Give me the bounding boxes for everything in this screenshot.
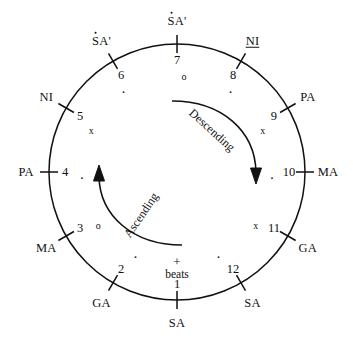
beat-tick <box>109 53 118 69</box>
swara-label-8: NI <box>246 35 260 48</box>
beat-number-7: 7 <box>174 54 180 67</box>
swara-label-1: SA <box>169 317 185 330</box>
beat-number-6: 6 <box>118 69 124 82</box>
marker-circle-3: o <box>96 221 101 231</box>
beat-number-10: 10 <box>283 166 296 179</box>
beats-plus-marker: + <box>173 255 180 268</box>
swara-label-6: SA' <box>92 35 111 48</box>
marker-cross-9: x <box>260 126 265 136</box>
marker-dot-4: · <box>80 171 85 186</box>
beat-number-2: 2 <box>118 263 124 276</box>
beat-number-11: 11 <box>268 222 280 235</box>
beat-number-3: 3 <box>77 222 83 235</box>
beat-number-12: 12 <box>227 263 240 276</box>
beat-tick <box>237 53 246 69</box>
marker-dot-12: · <box>216 249 221 264</box>
page-bleed-artifact <box>0 0 353 7</box>
swara-label-7: SA' <box>168 15 187 28</box>
beat-tick <box>109 275 118 291</box>
beat-tick <box>280 104 296 113</box>
swara-label-9: PA <box>300 90 315 103</box>
marker-dot-2: · <box>133 249 138 264</box>
marker-dot-8: · <box>228 85 233 100</box>
beat-number-8: 8 <box>230 69 236 82</box>
beat-number-9: 9 <box>271 110 277 123</box>
swara-label-3: MA <box>36 241 57 254</box>
beat-number-4: 4 <box>62 166 68 179</box>
ascending-arrowhead <box>94 165 105 181</box>
marker-dot-10: · <box>270 171 275 186</box>
swara-label-4: PA <box>18 166 33 179</box>
swara-label-10: MA <box>318 166 339 179</box>
swara-label-5: NI <box>39 90 53 103</box>
marker-dot-6: · <box>121 85 126 100</box>
marker-circle-7: o <box>182 72 187 82</box>
swara-label-2: GA <box>92 297 110 310</box>
beat-tick <box>280 232 296 241</box>
chakra-diagram: Descending Ascending + beats SA1+GA2·MA3… <box>0 0 353 339</box>
beat-number-5: 5 <box>77 110 83 123</box>
swara-label-11: GA <box>299 241 317 254</box>
marker-cross-11: x <box>253 221 258 231</box>
beat-tick <box>58 104 74 113</box>
beat-tick <box>237 275 246 291</box>
beat-tick <box>58 232 74 241</box>
swara-label-12: SA <box>244 297 260 310</box>
beat-number-1: 1 <box>174 278 180 291</box>
marker-cross-5: x <box>89 126 94 136</box>
descending-arrowhead <box>251 168 262 184</box>
